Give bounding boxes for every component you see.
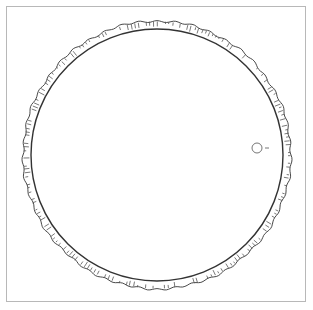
- ring-drawing: [0, 0, 313, 310]
- ring: [22, 21, 292, 290]
- marker-circle-icon: [252, 143, 269, 153]
